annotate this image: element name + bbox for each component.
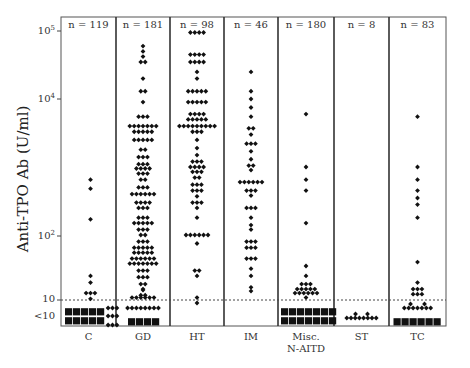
below-detection-block bbox=[394, 318, 401, 325]
data-point-diamond bbox=[141, 185, 146, 190]
data-point-diamond bbox=[365, 316, 370, 321]
data-point-diamond bbox=[88, 296, 93, 301]
data-point-diamond bbox=[138, 282, 143, 287]
data-point-diamond bbox=[249, 274, 254, 279]
data-point-diamond bbox=[186, 100, 191, 105]
data-point-diamond bbox=[244, 206, 249, 211]
data-point-diamond bbox=[188, 112, 193, 117]
data-point-diamond bbox=[156, 306, 161, 311]
data-point-diamond bbox=[374, 316, 379, 321]
data-point-diamond bbox=[249, 89, 254, 94]
data-point-diamond bbox=[88, 274, 93, 279]
data-point-diamond bbox=[147, 192, 152, 197]
data-point-diamond bbox=[306, 291, 311, 296]
data-point-diamond bbox=[136, 171, 141, 176]
data-point-diamond bbox=[190, 159, 195, 164]
data-point-diamond bbox=[402, 306, 407, 311]
y-tick-label: <10 bbox=[25, 310, 55, 321]
data-point-diamond bbox=[136, 185, 141, 190]
data-point-diamond bbox=[415, 306, 420, 311]
y-tick-label: 104 bbox=[25, 92, 55, 104]
data-point-diamond bbox=[141, 124, 146, 129]
data-point-diamond bbox=[203, 100, 208, 105]
data-point-diamond bbox=[195, 188, 200, 193]
data-point-diamond bbox=[308, 287, 313, 292]
sample-size-label: n = 8 bbox=[332, 19, 392, 30]
data-point-diamond bbox=[312, 287, 317, 292]
data-point-diamond bbox=[145, 138, 150, 143]
data-point-diamond bbox=[141, 76, 146, 81]
data-point-diamond bbox=[184, 233, 189, 238]
data-point-diamond bbox=[415, 177, 420, 182]
data-point-diamond bbox=[251, 163, 256, 168]
below-detection-block bbox=[73, 308, 80, 315]
data-point-diamond bbox=[361, 316, 366, 321]
data-point-diamond bbox=[195, 100, 200, 105]
data-point-diamond bbox=[138, 60, 143, 65]
data-point-diamond bbox=[136, 206, 141, 211]
data-point-diamond bbox=[110, 306, 115, 311]
data-point-diamond bbox=[249, 227, 254, 232]
data-point-diamond bbox=[136, 215, 141, 220]
data-point-diamond bbox=[143, 60, 148, 65]
data-point-diamond bbox=[141, 221, 146, 226]
data-point-diamond bbox=[299, 282, 304, 287]
data-point-diamond bbox=[195, 182, 200, 187]
data-point-diamond bbox=[199, 200, 204, 205]
data-point-diamond bbox=[149, 245, 154, 250]
data-point-diamond bbox=[199, 124, 204, 129]
data-point-diamond bbox=[195, 76, 200, 81]
data-point-diamond bbox=[249, 188, 254, 193]
data-point-diamond bbox=[136, 155, 141, 160]
below-detection-block bbox=[305, 317, 312, 324]
data-point-diamond bbox=[110, 314, 115, 319]
data-point-diamond bbox=[145, 185, 150, 190]
data-point-diamond bbox=[192, 30, 197, 35]
data-point-diamond bbox=[304, 295, 309, 300]
data-point-diamond bbox=[152, 256, 157, 261]
data-point-diamond bbox=[197, 112, 202, 117]
data-point-diamond bbox=[141, 155, 146, 160]
data-point-diamond bbox=[186, 117, 191, 122]
data-point-diamond bbox=[186, 124, 191, 129]
plot-area bbox=[0, 0, 470, 368]
data-point-diamond bbox=[197, 60, 202, 65]
data-point-diamond bbox=[149, 221, 154, 226]
data-point-diamond bbox=[411, 287, 416, 292]
data-point-diamond bbox=[88, 217, 93, 222]
data-point-diamond bbox=[420, 306, 425, 311]
data-point-diamond bbox=[88, 186, 93, 191]
data-point-diamond bbox=[199, 129, 204, 134]
data-point-diamond bbox=[192, 52, 197, 57]
data-point-diamond bbox=[134, 306, 139, 311]
data-point-diamond bbox=[88, 280, 93, 285]
data-point-diamond bbox=[195, 215, 200, 220]
data-point-diamond bbox=[195, 206, 200, 211]
data-point-diamond bbox=[251, 126, 256, 131]
data-point-diamond bbox=[149, 124, 154, 129]
below-detection-block bbox=[281, 317, 288, 324]
data-point-diamond bbox=[203, 89, 208, 94]
data-point-diamond bbox=[195, 138, 200, 143]
data-point-diamond bbox=[420, 287, 425, 292]
data-point-diamond bbox=[106, 323, 111, 328]
data-point-diamond bbox=[141, 215, 146, 220]
data-point-diamond bbox=[203, 124, 208, 129]
data-point-diamond bbox=[195, 70, 200, 75]
data-point-diamond bbox=[197, 268, 202, 273]
data-point-diamond bbox=[127, 261, 132, 266]
data-point-diamond bbox=[304, 188, 309, 193]
data-point-diamond bbox=[415, 165, 420, 170]
data-point-diamond bbox=[138, 166, 143, 171]
below-detection-block bbox=[313, 308, 320, 315]
data-point-diamond bbox=[141, 245, 146, 250]
data-point-diamond bbox=[190, 100, 195, 105]
data-point-diamond bbox=[251, 180, 256, 185]
data-point-diamond bbox=[152, 192, 157, 197]
below-detection-block bbox=[321, 317, 328, 324]
data-point-diamond bbox=[249, 256, 254, 261]
data-point-diamond bbox=[127, 124, 132, 129]
data-point-diamond bbox=[199, 169, 204, 174]
data-point-diamond bbox=[138, 89, 143, 94]
data-point-diamond bbox=[415, 280, 420, 285]
